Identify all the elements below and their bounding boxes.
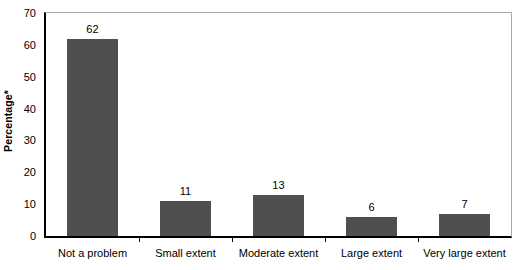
- bar-value-label: 13: [272, 179, 284, 192]
- bar-group[interactable]: 6: [346, 13, 397, 236]
- bar-group[interactable]: 7: [439, 13, 490, 236]
- bar-group[interactable]: 62: [67, 13, 118, 236]
- bar-value-label: 7: [461, 198, 467, 211]
- bar-value-label: 11: [180, 185, 191, 198]
- bar-value-label: 62: [86, 23, 98, 36]
- x-axis-category-label: Not a problem: [46, 246, 139, 260]
- x-axis-category-label: Small extent: [139, 246, 232, 260]
- y-axis-tick-label: 70: [0, 6, 42, 20]
- y-axis-tick-label: 50: [0, 70, 42, 84]
- x-axis-tick-mark: [418, 237, 419, 242]
- bar-rect[interactable]: [67, 39, 118, 237]
- y-axis-tick-label: 30: [0, 133, 42, 147]
- y-axis-tick-label: 0: [0, 229, 42, 243]
- bar-group[interactable]: 11: [160, 13, 211, 236]
- x-axis-category-label: Moderate extent: [232, 246, 325, 260]
- bar-rect[interactable]: [439, 214, 490, 236]
- y-axis-tick-label: 20: [0, 165, 42, 179]
- bar-value-label: 6: [368, 201, 374, 214]
- bar-chart-figure: Percentage* 010203040506070 62111367 Not…: [0, 0, 517, 270]
- plot-area: 62111367: [44, 12, 512, 238]
- x-axis-category-label: Large extent: [325, 246, 418, 260]
- bar-rect[interactable]: [160, 201, 211, 236]
- bar-rect[interactable]: [253, 195, 304, 236]
- x-axis-tick-mark: [325, 237, 326, 242]
- bar-group[interactable]: 13: [253, 13, 304, 236]
- y-axis-tick-label: 60: [0, 38, 42, 52]
- y-axis-tick-label: 40: [0, 102, 42, 116]
- bar-rect[interactable]: [346, 217, 397, 236]
- x-axis-tick-mark: [139, 237, 140, 242]
- x-axis-category-label: Very large extent: [418, 246, 511, 260]
- y-axis-tick-label: 10: [0, 197, 42, 211]
- x-axis-tick-mark: [232, 237, 233, 242]
